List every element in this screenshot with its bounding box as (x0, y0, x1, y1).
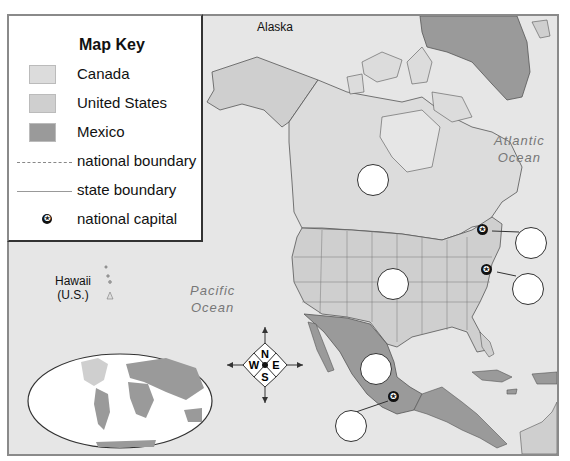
capital-star-icon-washington: ✪ (481, 264, 492, 275)
united-states-swatch (29, 94, 56, 113)
compass-e: E (272, 359, 279, 371)
blank-circle-ottawa[interactable] (515, 227, 547, 259)
hawaii-label-line2: (U.S.) (55, 288, 91, 302)
world-globe-inset (26, 352, 214, 450)
key-label: national boundary (77, 152, 196, 169)
atlantic-line2: Ocean (494, 149, 545, 166)
map-key: Map Key Canada United States Mexico nati… (7, 14, 203, 242)
national-boundary-line-icon (17, 162, 72, 163)
compass-w: W (249, 359, 260, 371)
hawaii-label-line1: Hawaii (55, 274, 91, 288)
key-item-united-states: United States (9, 92, 205, 116)
key-item-national-boundary: national boundary (9, 150, 205, 174)
blank-circle-mexico[interactable] (360, 353, 392, 385)
key-label: Mexico (77, 123, 125, 140)
canada-swatch (29, 65, 56, 84)
pacific-ocean-label: Pacific Ocean (190, 282, 235, 316)
key-label: state boundary (77, 181, 176, 198)
key-label: national capital (77, 210, 177, 227)
compass-rose: N S W E (225, 325, 305, 405)
hawaii-islands (105, 266, 113, 299)
hawaii-label: Hawaii (U.S.) (55, 274, 91, 302)
state-boundary-line-icon (17, 191, 72, 192)
key-item-canada: Canada (9, 63, 205, 87)
compass-n: N (261, 348, 269, 360)
blank-circle-united-states[interactable] (377, 268, 409, 300)
blank-circle-mexico-city[interactable] (335, 410, 367, 442)
central-america-shape (414, 387, 507, 448)
key-item-national-capital: ✪ national capital (9, 208, 205, 232)
blank-circle-washington[interactable] (512, 273, 544, 305)
atlantic-ocean-label: Atlantic Ocean (494, 132, 545, 166)
blank-circle-canada[interactable] (357, 164, 389, 196)
capital-star-icon-ottawa: ✪ (477, 224, 488, 235)
mexico-swatch (29, 123, 56, 142)
capital-star-icon-mexico-city: ✪ (388, 391, 399, 402)
greenland-shape (420, 16, 530, 100)
pacific-line2: Ocean (190, 299, 235, 316)
key-item-state-boundary: state boundary (9, 179, 205, 203)
key-label: United States (77, 94, 167, 111)
key-label: Canada (77, 65, 130, 82)
compass-s: S (261, 371, 268, 383)
atlantic-line1: Atlantic (494, 132, 545, 149)
capital-star-icon: ✪ (42, 214, 52, 224)
pacific-line1: Pacific (190, 282, 235, 299)
alaska-label: Alaska (257, 20, 293, 34)
map-key-title: Map Key (79, 36, 145, 54)
key-item-mexico: Mexico (9, 121, 205, 145)
